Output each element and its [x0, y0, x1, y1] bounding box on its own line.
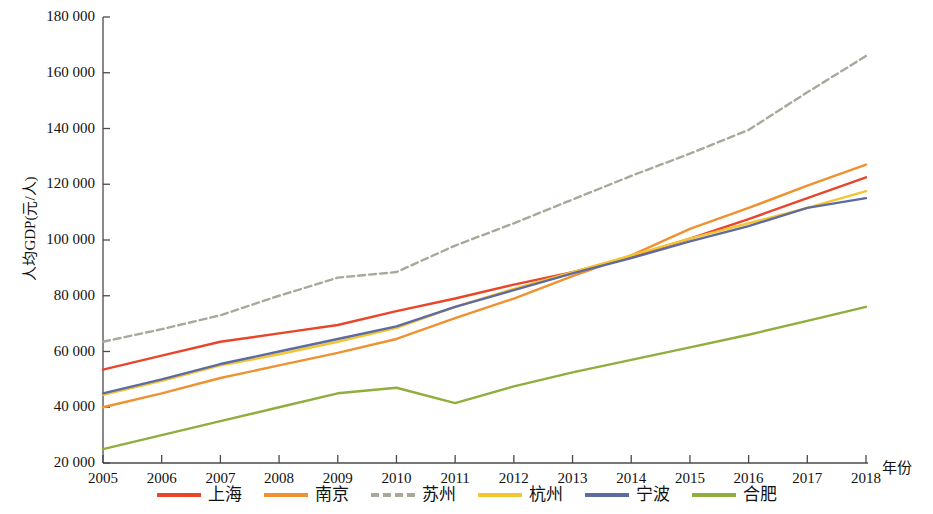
legend-swatch-icon: [264, 493, 308, 497]
legend-item-杭州[interactable]: 杭州: [478, 486, 563, 503]
legend-label: 上海: [208, 486, 242, 503]
x-tick-label: 2012: [485, 471, 543, 486]
y-tick-label: 180 000: [9, 9, 95, 24]
legend-item-南京[interactable]: 南京: [264, 486, 349, 503]
x-tick-label: 2008: [250, 471, 308, 486]
y-axis-title: 人均GDP(元/人): [18, 129, 39, 329]
legend-label: 宁波: [636, 486, 670, 503]
series-lines: [103, 56, 866, 449]
legend-label: 杭州: [529, 486, 563, 503]
legend-label: 南京: [315, 486, 349, 503]
legend-swatch-icon: [585, 493, 629, 497]
x-tick-label: 2005: [74, 471, 132, 486]
legend-swatch-icon: [157, 493, 201, 497]
tick-marks: [103, 17, 866, 463]
x-tick-label: 2007: [191, 471, 249, 486]
x-tick-label: 2011: [426, 471, 484, 486]
y-tick-label: 60 000: [9, 344, 95, 359]
x-tick-label: 2015: [661, 471, 719, 486]
series-line-南京: [103, 165, 866, 408]
x-tick-label: 2017: [778, 471, 836, 486]
series-line-宁波: [103, 198, 866, 393]
chart-legend: 上海南京苏州杭州宁波合肥: [0, 486, 933, 503]
line-chart: 20 00040 00060 00080 000100 000120 00014…: [0, 0, 933, 514]
y-tick-label: 40 000: [9, 399, 95, 414]
x-tick-label: 2010: [367, 471, 425, 486]
x-tick-label: 2009: [309, 471, 367, 486]
plot-surface: [0, 0, 933, 514]
x-tick-label: 2016: [720, 471, 778, 486]
legend-item-苏州[interactable]: 苏州: [371, 486, 456, 503]
x-tick-label: 2006: [133, 471, 191, 486]
legend-label: 苏州: [422, 486, 456, 503]
legend-swatch-icon: [478, 493, 522, 497]
legend-item-上海[interactable]: 上海: [157, 486, 242, 503]
axis-lines: [103, 17, 868, 463]
y-tick-label: 160 000: [9, 65, 95, 80]
x-tick-label: 2014: [602, 471, 660, 486]
legend-label: 合肥: [743, 486, 777, 503]
legend-swatch-icon: [692, 493, 736, 497]
legend-item-宁波[interactable]: 宁波: [585, 486, 670, 503]
x-axis-title: 年份: [882, 456, 912, 477]
legend-item-合肥[interactable]: 合肥: [692, 486, 777, 503]
y-tick-label: 20 000: [9, 455, 95, 470]
legend-swatch-icon: [371, 493, 415, 497]
x-tick-label: 2013: [544, 471, 602, 486]
